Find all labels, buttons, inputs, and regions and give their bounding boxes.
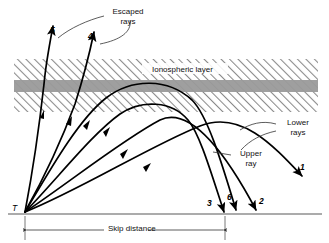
ray-3-midarrow	[103, 127, 110, 137]
ray-3-path	[25, 104, 224, 212]
escaped-rays-label: Escaped rays	[104, 7, 152, 26]
ray-1-midarrow	[143, 163, 151, 172]
lower-rays-leader-1	[240, 122, 276, 130]
ray-label-2: 2	[259, 196, 264, 206]
transmitter-marker: T	[12, 203, 17, 213]
lower-rays-line1: Lower	[277, 118, 319, 128]
upper-ray-line1: Upper	[233, 149, 269, 159]
upper-ray-label: Upper ray	[233, 149, 269, 168]
ray-label-1: 1	[300, 162, 305, 172]
ray-label-3: 3	[207, 198, 212, 208]
ray-label-5: 5	[50, 25, 55, 35]
escaped-rays-line1: Escaped	[104, 7, 152, 17]
skip-distance-label: Skip distance	[108, 224, 156, 234]
ray-label-6: 6	[227, 192, 232, 202]
ray-2-midarrow	[120, 149, 128, 159]
ray-label-4: 4	[88, 31, 93, 41]
escaped-leader-1	[58, 16, 104, 38]
upper-ray-line2: ray	[233, 159, 269, 169]
escaped-rays-line2: rays	[104, 17, 152, 27]
lower-rays-label: Lower rays	[277, 118, 319, 137]
figure-canvas: Escaped rays Ionospheric layer Lower ray…	[0, 0, 329, 243]
ionospheric-layer-label: Ionospheric layer	[152, 65, 213, 75]
lower-rays-leader-2	[241, 131, 276, 150]
lower-rays-line2: rays	[277, 128, 319, 138]
